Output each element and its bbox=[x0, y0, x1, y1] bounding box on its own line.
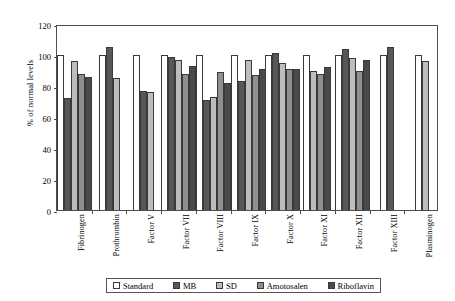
legend-swatch-icon bbox=[328, 282, 335, 289]
bar bbox=[57, 55, 64, 210]
bar-group bbox=[57, 26, 92, 210]
x-axis-label: Plasminogen bbox=[425, 214, 434, 280]
bar-chart-figure: % of normal levels 020406080100120 Fibri… bbox=[0, 0, 455, 301]
bar bbox=[272, 53, 279, 210]
bar bbox=[363, 60, 370, 210]
bar bbox=[147, 92, 154, 210]
bar bbox=[245, 60, 252, 210]
legend-label: Standard bbox=[123, 281, 153, 291]
bar bbox=[210, 97, 217, 210]
bar bbox=[64, 98, 71, 210]
bar bbox=[168, 57, 175, 210]
bar bbox=[175, 60, 182, 210]
y-tick-label: 20 bbox=[43, 176, 58, 186]
y-tick-label: 100 bbox=[38, 52, 57, 62]
bar bbox=[85, 77, 92, 210]
bar-group bbox=[231, 26, 266, 210]
bar bbox=[71, 61, 78, 210]
bar bbox=[324, 67, 331, 210]
bar bbox=[349, 58, 356, 210]
bar-group bbox=[99, 26, 120, 210]
x-axis-label: Factor V bbox=[147, 214, 156, 280]
bar bbox=[231, 55, 238, 210]
x-axis-labels: FibrinogenProthrombinFactor VFactor VIIF… bbox=[56, 214, 438, 274]
bar bbox=[342, 49, 349, 210]
bar bbox=[387, 47, 394, 210]
y-tick-label: 120 bbox=[38, 21, 57, 31]
bar-group bbox=[133, 26, 154, 210]
chart-legend: StandardMBSDAmotosalenRiboflavin bbox=[106, 278, 381, 293]
y-tick-label: 40 bbox=[43, 145, 58, 155]
legend-label: Amotosalen bbox=[267, 281, 308, 291]
bar-group bbox=[303, 26, 331, 210]
bar bbox=[78, 74, 85, 210]
legend-item: MB bbox=[173, 281, 196, 291]
bar bbox=[286, 69, 293, 210]
bar bbox=[106, 47, 113, 210]
plot-area: 020406080100120 bbox=[56, 25, 438, 211]
bar-groups bbox=[57, 26, 437, 210]
bar bbox=[238, 81, 245, 210]
bar bbox=[252, 75, 259, 210]
y-tick-label: 60 bbox=[43, 114, 58, 124]
bar bbox=[265, 55, 272, 210]
bar bbox=[279, 63, 286, 210]
legend-item: Standard bbox=[113, 281, 153, 291]
bar bbox=[356, 71, 363, 211]
bar-group bbox=[265, 26, 300, 210]
bar bbox=[293, 69, 300, 210]
legend-item: SD bbox=[216, 281, 237, 291]
legend-item: Riboflavin bbox=[328, 281, 374, 291]
x-axis-label: Factor XIII bbox=[390, 214, 399, 280]
x-axis-label: Factor XII bbox=[355, 214, 364, 280]
bar bbox=[415, 55, 422, 210]
x-axis-label: Factor VII bbox=[182, 214, 191, 280]
bar-group bbox=[196, 26, 231, 210]
bar bbox=[203, 100, 210, 210]
bar bbox=[335, 55, 342, 210]
legend-swatch-icon bbox=[173, 282, 180, 289]
bar bbox=[113, 78, 120, 210]
x-axis-label: Factor VIII bbox=[216, 214, 225, 280]
legend-label: Riboflavin bbox=[338, 281, 374, 291]
bar bbox=[380, 55, 387, 210]
legend-swatch-icon bbox=[113, 282, 120, 289]
x-axis-label: Fibrinogen bbox=[77, 214, 86, 280]
x-axis-label: Factor IX bbox=[251, 214, 260, 280]
bar-group bbox=[415, 26, 429, 210]
legend-swatch-icon bbox=[216, 282, 223, 289]
x-axis-label: Prothrombin bbox=[112, 214, 121, 280]
x-axis-label: Factor X bbox=[286, 214, 295, 280]
legend-item: Amotosalen bbox=[257, 281, 308, 291]
bar-group bbox=[335, 26, 370, 210]
bar-group bbox=[161, 26, 196, 210]
bar bbox=[317, 74, 324, 210]
legend-swatch-icon bbox=[257, 282, 264, 289]
bar bbox=[133, 55, 140, 210]
bar bbox=[99, 55, 106, 210]
y-axis-title: % of normal levels bbox=[25, 23, 35, 163]
bar bbox=[196, 55, 203, 210]
legend-label: MB bbox=[183, 281, 196, 291]
y-tick-label: 80 bbox=[43, 83, 58, 93]
x-axis-label: Factor XI bbox=[320, 214, 329, 280]
legend-label: SD bbox=[226, 281, 237, 291]
bar bbox=[310, 71, 317, 211]
bar bbox=[422, 61, 429, 210]
bar bbox=[303, 55, 310, 210]
bar-group bbox=[380, 26, 394, 210]
bar bbox=[140, 91, 147, 210]
bar bbox=[161, 55, 168, 210]
bar bbox=[217, 72, 224, 210]
bar bbox=[182, 74, 189, 210]
